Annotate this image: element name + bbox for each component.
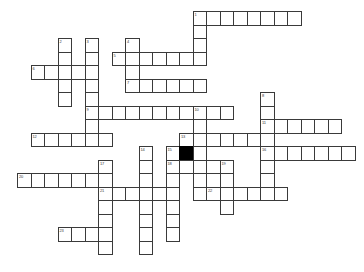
crossword-cell[interactable] (98, 133, 113, 148)
crossword-cell[interactable] (166, 106, 181, 121)
crossword-cell[interactable] (98, 241, 113, 256)
crossword-cell[interactable]: 16 (260, 146, 275, 161)
crossword-cell[interactable] (139, 79, 154, 94)
crossword-cell[interactable]: 1 (193, 11, 208, 26)
crossword-cell[interactable] (260, 133, 275, 148)
crossword-cell[interactable]: 20 (17, 173, 32, 188)
crossword-cell[interactable] (98, 173, 113, 188)
crossword-cell[interactable] (233, 187, 248, 202)
crossword-cell[interactable] (193, 119, 208, 134)
crossword-cell[interactable] (166, 187, 181, 202)
crossword-cell[interactable] (71, 65, 86, 80)
crossword-cell[interactable] (166, 52, 181, 67)
crossword-cell[interactable]: 5 (112, 52, 127, 67)
crossword-cell[interactable] (166, 79, 181, 94)
crossword-cell[interactable]: 9 (85, 106, 100, 121)
crossword-cell[interactable] (274, 187, 289, 202)
crossword-cell[interactable]: 19 (220, 160, 235, 175)
crossword-cell[interactable] (179, 52, 194, 67)
crossword-cell[interactable] (274, 119, 289, 134)
crossword-cell[interactable] (152, 52, 167, 67)
crossword-cell[interactable]: 12 (31, 133, 46, 148)
crossword-cell[interactable] (139, 241, 154, 256)
crossword-cell[interactable]: 6 (31, 65, 46, 80)
crossword-cell[interactable] (71, 227, 86, 242)
crossword-cell[interactable] (152, 106, 167, 121)
crossword-cell[interactable] (328, 119, 343, 134)
crossword-cell[interactable] (112, 187, 127, 202)
crossword-cell[interactable] (139, 214, 154, 229)
crossword-cell[interactable] (31, 173, 46, 188)
crossword-cell[interactable] (341, 146, 356, 161)
crossword-cell[interactable] (139, 200, 154, 215)
crossword-cell[interactable] (260, 173, 275, 188)
crossword-cell[interactable] (233, 11, 248, 26)
crossword-cell[interactable] (193, 187, 208, 202)
crossword-cell[interactable] (287, 146, 302, 161)
crossword-cell[interactable] (220, 133, 235, 148)
crossword-cell[interactable] (85, 52, 100, 67)
crossword-cell[interactable] (85, 79, 100, 94)
crossword-cell[interactable] (85, 227, 100, 242)
crossword-cell[interactable] (193, 25, 208, 40)
crossword-cell[interactable] (152, 187, 167, 202)
crossword-cell[interactable] (247, 11, 262, 26)
crossword-cell[interactable] (233, 133, 248, 148)
crossword-cell[interactable] (139, 160, 154, 175)
crossword-cell[interactable] (314, 146, 329, 161)
crossword-cell[interactable] (193, 79, 208, 94)
crossword-cell[interactable] (193, 146, 208, 161)
crossword-cell[interactable] (193, 173, 208, 188)
crossword-cell[interactable]: 14 (139, 146, 154, 161)
crossword-cell[interactable] (44, 133, 59, 148)
crossword-cell[interactable] (193, 160, 208, 175)
crossword-cell[interactable] (206, 133, 221, 148)
crossword-cell[interactable] (139, 227, 154, 242)
crossword-cell[interactable] (193, 52, 208, 67)
crossword-cell[interactable] (220, 187, 235, 202)
crossword-cell[interactable] (287, 119, 302, 134)
crossword-cell[interactable] (166, 227, 181, 242)
crossword-cell[interactable] (98, 227, 113, 242)
crossword-cell[interactable] (220, 200, 235, 215)
crossword-cell[interactable] (260, 160, 275, 175)
crossword-cell[interactable] (58, 65, 73, 80)
crossword-cell[interactable] (260, 11, 275, 26)
crossword-cell[interactable] (193, 38, 208, 53)
crossword-cell[interactable]: 17 (98, 160, 113, 175)
crossword-cell[interactable] (287, 11, 302, 26)
crossword-cell[interactable]: 11 (260, 119, 275, 134)
crossword-cell[interactable] (125, 52, 140, 67)
crossword-cell[interactable] (328, 146, 343, 161)
crossword-cell[interactable] (179, 160, 194, 175)
crossword-cell[interactable] (301, 119, 316, 134)
crossword-cell[interactable] (98, 214, 113, 229)
crossword-cell[interactable] (274, 11, 289, 26)
crossword-cell[interactable]: 13 (179, 133, 194, 148)
crossword-cell[interactable] (58, 92, 73, 107)
crossword-cell[interactable]: 23 (58, 227, 73, 242)
crossword-cell[interactable]: 7 (125, 79, 140, 94)
crossword-cell[interactable]: 15 (166, 146, 181, 161)
crossword-cell[interactable] (166, 200, 181, 215)
crossword-cell[interactable]: 18 (166, 160, 181, 175)
crossword-cell[interactable] (220, 106, 235, 121)
crossword-cell[interactable] (247, 133, 262, 148)
crossword-cell[interactable] (58, 173, 73, 188)
crossword-cell[interactable] (206, 11, 221, 26)
crossword-cell[interactable] (166, 173, 181, 188)
crossword-cell[interactable] (139, 52, 154, 67)
crossword-cell[interactable] (44, 173, 59, 188)
crossword-cell[interactable] (139, 106, 154, 121)
crossword-cell[interactable] (125, 187, 140, 202)
crossword-cell[interactable] (85, 119, 100, 134)
crossword-cell[interactable] (247, 187, 262, 202)
crossword-cell[interactable] (260, 187, 275, 202)
crossword-cell[interactable] (85, 133, 100, 148)
crossword-cell[interactable] (71, 173, 86, 188)
crossword-cell[interactable] (58, 79, 73, 94)
crossword-cell[interactable]: 8 (260, 92, 275, 107)
crossword-cell[interactable] (98, 106, 113, 121)
crossword-cell[interactable] (179, 79, 194, 94)
crossword-cell[interactable] (274, 146, 289, 161)
